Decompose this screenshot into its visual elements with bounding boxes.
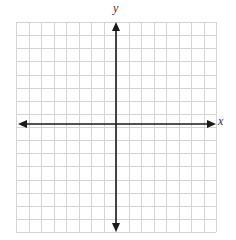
x-axis-right-arrow-icon bbox=[207, 120, 216, 128]
y-axis-down-arrow-icon bbox=[112, 223, 120, 232]
x-axis-left-arrow-icon bbox=[18, 120, 27, 128]
y-axis-up-arrow-icon bbox=[112, 22, 120, 31]
y-axis-label: y bbox=[113, 1, 118, 16]
grid-canvas bbox=[0, 0, 236, 240]
x-axis-label: x bbox=[218, 114, 223, 129]
